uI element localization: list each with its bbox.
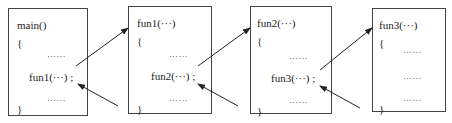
return-arrow-fun1-to-main xyxy=(78,84,118,106)
call-arrow-fun1-to-fun2 xyxy=(198,28,250,66)
return-arrow-fun2-to-fun1 xyxy=(198,84,238,106)
return-arrow-fun3-to-fun2 xyxy=(320,86,360,108)
call-arrow-main-to-fun1 xyxy=(76,28,128,66)
call-arrow-fun2-to-fun3 xyxy=(320,28,372,70)
arrows-layer xyxy=(0,0,452,123)
